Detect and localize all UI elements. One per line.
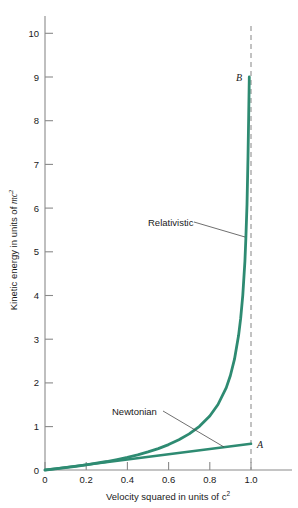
x-axis-tick-labels: 0 0.2 0.4 0.6 0.8 1.0 — [42, 474, 257, 485]
newtonian-label: Newtonian — [112, 406, 157, 417]
x-ticklabel-0: 0 — [42, 474, 47, 485]
y-ticklabel-8: 8 — [34, 115, 39, 126]
relativistic-label: Relativistic — [148, 217, 194, 228]
x-ticklabel-1.0: 1.0 — [244, 474, 257, 485]
y-axis-ticks — [45, 33, 53, 426]
y-axis-tick-labels: 10 9 8 7 6 5 4 3 2 1 0 — [28, 28, 39, 476]
y-ticklabel-2: 2 — [34, 377, 39, 388]
y-ticklabel-10: 10 — [28, 28, 39, 39]
point-b-label: B — [236, 72, 242, 83]
y-ticklabel-9: 9 — [34, 72, 39, 83]
newtonian-annotation: Newtonian — [112, 406, 224, 447]
x-ticklabel-0.4: 0.4 — [121, 474, 134, 485]
y-ticklabel-5: 5 — [34, 246, 39, 257]
x-ticklabel-0.8: 0.8 — [203, 474, 216, 485]
y-axis-title: Kinetic energy in units of mc2 — [7, 189, 19, 310]
axes-group — [45, 16, 292, 470]
y-ticklabel-1: 1 — [34, 421, 39, 432]
relativistic-leader-line — [194, 222, 245, 237]
x-axis-title: Velocity squared in units of c2 — [106, 490, 230, 502]
relativistic-annotation: Relativistic — [148, 217, 245, 237]
y-ticklabel-7: 7 — [34, 159, 39, 170]
y-ticklabel-3: 3 — [34, 334, 39, 345]
chart-figure: 10 9 8 7 6 5 4 3 2 1 0 0 0.2 0.4 0.6 — [0, 0, 298, 508]
point-a-label: A — [256, 439, 264, 450]
x-ticklabel-0.6: 0.6 — [162, 474, 175, 485]
y-axis-title-text: Kinetic energy in units of — [8, 204, 19, 310]
y-axis-title-sup: 2 — [7, 189, 14, 193]
x-axis-title-sup: 2 — [226, 490, 230, 497]
y-ticklabel-4: 4 — [34, 290, 39, 301]
x-axis-title-text: Velocity squared in units of c — [106, 491, 227, 502]
x-ticklabel-0.2: 0.2 — [80, 474, 93, 485]
y-axis-title-italic: mc — [9, 192, 19, 204]
kinetic-energy-plot: 10 9 8 7 6 5 4 3 2 1 0 0 0.2 0.4 0.6 — [0, 0, 298, 508]
y-ticklabel-6: 6 — [34, 203, 39, 214]
y-ticklabel-0: 0 — [34, 465, 39, 476]
